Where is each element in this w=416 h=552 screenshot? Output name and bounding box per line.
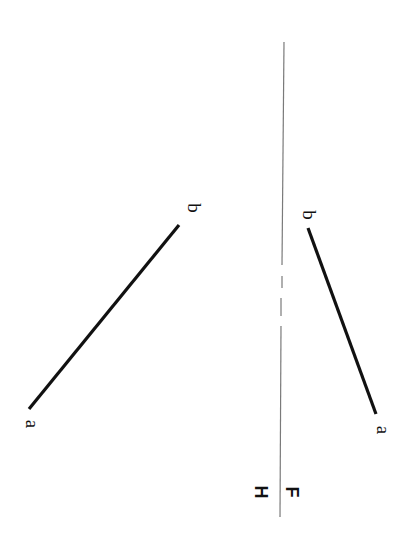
reference-line [280, 42, 284, 517]
reference-line-lower [280, 326, 281, 517]
reference-label-f: F [282, 487, 302, 498]
top-view-line-ab [29, 225, 179, 409]
top-view-label-a: a [22, 420, 43, 429]
projection-diagram: H F a b b a [0, 0, 416, 552]
top-view-label-b: b [184, 203, 205, 213]
reference-label-h: H [251, 486, 271, 499]
front-view-label-a: a [373, 426, 394, 435]
front-view-label-b: b [299, 210, 320, 220]
front-view-line-ab [308, 228, 376, 414]
reference-line-upper [282, 42, 284, 265]
